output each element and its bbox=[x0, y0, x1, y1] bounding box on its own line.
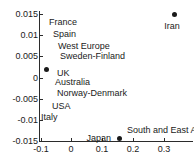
x-tick-label: 0 bbox=[68, 145, 73, 154]
scatter-plot: 0.0150.010.0050-0.005-0.01-0.015 -0.100.… bbox=[0, 0, 194, 166]
x-tick-label: 0.1 bbox=[96, 145, 109, 154]
group-annotation-label: West Europe bbox=[58, 42, 110, 51]
y-tick-mark bbox=[40, 56, 43, 57]
y-tick-mark bbox=[40, 35, 43, 36]
group-annotation-label: Australia bbox=[55, 78, 90, 87]
data-point[interactable] bbox=[44, 67, 49, 72]
x-tick-label: 0.3 bbox=[158, 145, 171, 154]
group-annotation-label: Italy bbox=[41, 113, 58, 122]
group-annotation-label: Norway-Denmark bbox=[57, 89, 127, 98]
y-tick-label: 0.01 bbox=[20, 31, 38, 40]
y-tick-label: 0.015 bbox=[15, 10, 38, 19]
group-annotation-label: USA bbox=[52, 102, 71, 111]
data-point[interactable] bbox=[172, 12, 177, 17]
group-annotation-label: Sweden-Finland bbox=[60, 52, 125, 61]
data-point-label: Japan bbox=[0, 134, 111, 143]
y-axis-line bbox=[39, 11, 40, 142]
y-tick-label: 0.005 bbox=[15, 52, 38, 61]
data-point-label: Iran bbox=[164, 22, 180, 31]
y-tick-label: -0.01 bbox=[17, 116, 38, 125]
x-tick-mark bbox=[133, 138, 134, 141]
y-tick-label: -0.005 bbox=[12, 95, 38, 104]
y-tick-mark bbox=[40, 99, 43, 100]
group-annotation-label: Spain bbox=[53, 30, 76, 39]
y-tick-mark bbox=[40, 14, 43, 15]
y-tick-label: 0 bbox=[33, 74, 38, 83]
x-tick-label: 0.2 bbox=[127, 145, 140, 154]
x-tick-mark bbox=[164, 138, 165, 141]
x-tick-label: -0.1 bbox=[33, 145, 49, 154]
y-tick-mark bbox=[40, 78, 43, 79]
data-point-label: South and East Asia bbox=[127, 126, 194, 135]
group-annotation-label: France bbox=[49, 18, 77, 27]
